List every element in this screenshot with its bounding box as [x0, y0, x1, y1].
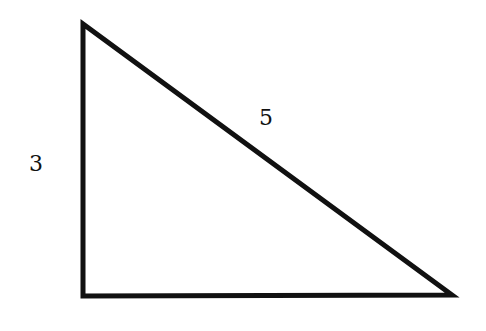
vertical-side-label: 3 — [29, 151, 43, 176]
hypotenuse-label: 5 — [259, 105, 273, 130]
triangle-diagram: 3 5 — [0, 0, 486, 331]
right-triangle — [83, 24, 452, 296]
